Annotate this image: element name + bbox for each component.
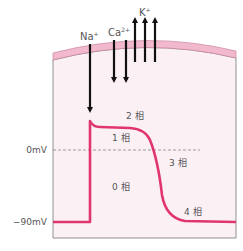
action-potential-diagram: Na+ Ca2+ K+ 0mV −90mV 2 相 1 相 3 相 0 相 4 … — [0, 0, 243, 251]
phase-3-label: 3 相 — [169, 157, 187, 168]
phase-2-label: 2 相 — [126, 110, 144, 121]
k-label: K+ — [139, 6, 151, 18]
ca-label: Ca2+ — [108, 26, 130, 38]
phase-4-label: 4 相 — [184, 206, 202, 217]
phase-1-label: 1 相 — [112, 132, 130, 143]
resting-mv-label: −90mV — [13, 217, 48, 227]
phase-0-label: 0 相 — [112, 181, 130, 192]
na-label: Na+ — [80, 30, 99, 42]
cell-interior — [53, 47, 236, 238]
zero-mv-label: 0mV — [26, 145, 47, 155]
